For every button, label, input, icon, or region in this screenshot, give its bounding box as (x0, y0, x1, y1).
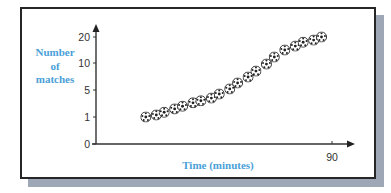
football-icon (196, 96, 206, 106)
football-icon (269, 52, 279, 62)
y-tick-label: 20 (78, 31, 90, 43)
x-tick-label: 90 (326, 151, 338, 163)
football-icon (261, 59, 271, 69)
football-icon (298, 37, 308, 47)
y-tick-label: 0 (84, 138, 90, 150)
football-icon (233, 78, 243, 88)
y-axis-arrow-icon (93, 24, 100, 32)
football-icon (251, 66, 261, 76)
y-axis: 0151020 (78, 24, 99, 150)
data-points (141, 32, 327, 122)
y-axis-label-line: matches (22, 73, 88, 87)
y-axis-label: Number of matches (22, 46, 88, 87)
y-axis-label-line: of (22, 60, 88, 74)
football-icon (141, 112, 151, 122)
y-tick-label: 1 (84, 111, 90, 123)
football-icon (214, 89, 224, 99)
y-axis-label-line: Number (22, 46, 88, 60)
football-icon (177, 101, 187, 111)
x-axis-arrow-icon (347, 141, 355, 148)
football-icon (159, 107, 169, 117)
x-axis-label: Time (minutes) (168, 159, 268, 171)
football-icon (316, 32, 326, 42)
football-icon (280, 45, 290, 55)
